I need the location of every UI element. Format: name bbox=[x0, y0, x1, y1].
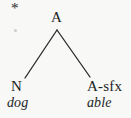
left-branch-line bbox=[25, 30, 57, 78]
left-child-category-label: N bbox=[11, 79, 22, 94]
syntax-tree-figure: * A N dog A-sfx able bbox=[0, 0, 131, 118]
root-node-label: A bbox=[51, 10, 62, 25]
left-child-terminal-label: dog bbox=[7, 96, 28, 110]
right-branch-line bbox=[57, 30, 90, 77]
right-child-terminal-label: able bbox=[87, 96, 112, 110]
right-child-category-label: A-sfx bbox=[87, 79, 122, 94]
